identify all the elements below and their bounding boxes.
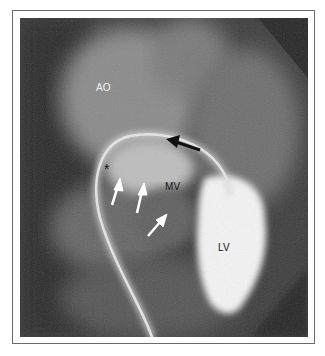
angiogram-graphic: [20, 18, 308, 337]
label-asterisk: *: [104, 161, 110, 177]
label-mitral-valve: MV: [165, 181, 180, 192]
label-left-ventricle: LV: [218, 242, 230, 253]
label-aorta: AO: [96, 82, 111, 93]
angiogram-image: AO * MV LV: [20, 18, 308, 337]
